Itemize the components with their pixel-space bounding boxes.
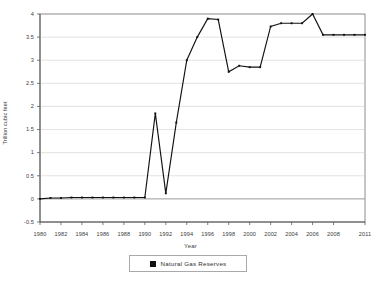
x-axis-title: Year	[0, 243, 381, 249]
y-axis-tick-label: 4	[12, 11, 34, 17]
legend-swatch-icon	[150, 261, 156, 267]
y-axis-tick-label: 3	[12, 57, 34, 63]
y-axis-tick-label: -0.5	[12, 219, 34, 225]
y-axis-tick-label: 1	[12, 149, 34, 155]
x-axis-tick-label: 2008	[321, 231, 347, 237]
y-axis-tick-label: 0	[12, 196, 34, 202]
y-axis-tick-label: 3.5	[12, 34, 34, 40]
y-axis-tick-label: 2.5	[12, 80, 34, 86]
legend-label-natural-gas-reserves: Natural Gas Reserves	[161, 260, 227, 267]
chart-figure: Trillion cubic feet Year Natural Gas Res…	[0, 0, 381, 286]
y-axis-tick-label: 0.5	[12, 173, 34, 179]
x-axis-tick-label: 2011	[352, 231, 378, 237]
y-axis-tick-label: 1.5	[12, 126, 34, 132]
chart-legend: Natural Gas Reserves	[129, 255, 247, 272]
y-axis-tick-label: 2	[12, 103, 34, 109]
